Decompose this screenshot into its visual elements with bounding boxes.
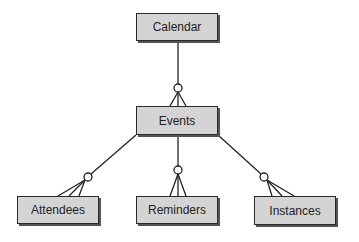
entity-events: Events xyxy=(136,106,218,135)
entity-calendar: Calendar xyxy=(136,13,218,41)
entity-attendees: Attendees xyxy=(17,196,99,224)
entity-reminders: Reminders xyxy=(136,196,218,224)
events-attendees-line xyxy=(91,135,136,174)
entity-label: Calendar xyxy=(153,20,202,34)
events-reminders-zero-marker xyxy=(174,166,182,174)
events-instances-line xyxy=(218,135,261,174)
entity-instances: Instances xyxy=(254,196,336,225)
events-attendees-zero-marker xyxy=(84,173,92,181)
entity-label: Events xyxy=(159,114,196,128)
entity-label: Attendees xyxy=(31,203,85,217)
events-instances-zero-marker xyxy=(260,173,268,181)
entity-label: Reminders xyxy=(148,203,206,217)
calendar-events-zero-marker xyxy=(174,84,182,92)
entity-label: Instances xyxy=(269,204,320,218)
